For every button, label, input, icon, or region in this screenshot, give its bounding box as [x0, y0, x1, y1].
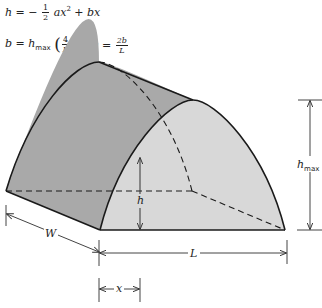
- parabolic-solid-diagram: h hmax W L x: [0, 0, 322, 308]
- hmax-label-sub: max: [304, 165, 319, 173]
- h-label: h: [137, 194, 144, 207]
- w-label: W: [45, 227, 58, 240]
- l-label: L: [189, 247, 197, 260]
- x-label: x: [116, 282, 123, 295]
- hmax-label-main: h: [297, 158, 304, 171]
